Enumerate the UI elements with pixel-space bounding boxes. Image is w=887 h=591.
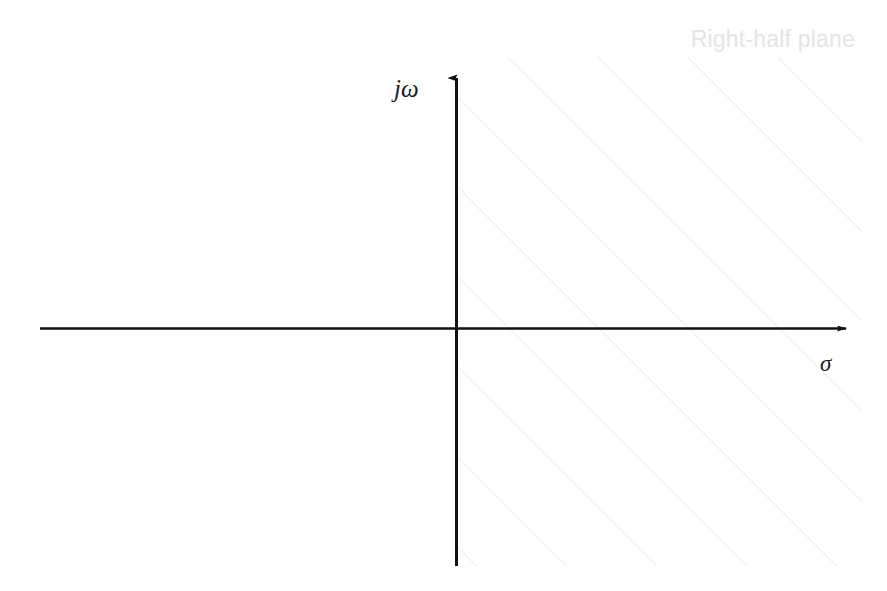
diagram-canvas bbox=[0, 0, 887, 591]
right-half-plane-hatching bbox=[456, 57, 862, 566]
s-plane-diagram: Right-half plane jω σ bbox=[0, 0, 887, 591]
real-axis-label: σ bbox=[820, 352, 831, 375]
right-half-plane-label: Right-half plane bbox=[691, 28, 855, 51]
hatched-region-group bbox=[456, 57, 862, 566]
imaginary-axis-label: jω bbox=[394, 76, 419, 101]
